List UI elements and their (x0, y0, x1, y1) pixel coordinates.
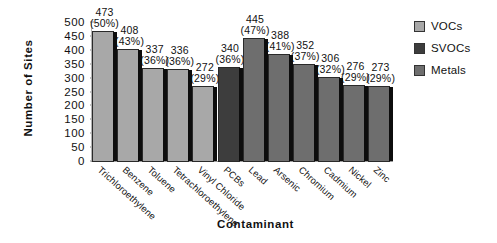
bar[interactable] (142, 68, 164, 162)
x-axis-title: Contaminant (0, 218, 497, 230)
bar-value-label: 273(29%) (366, 62, 395, 84)
bar-group: 408(43%) (117, 16, 142, 162)
legend-swatch-icon (414, 21, 425, 32)
bar-group: 473(50%) (92, 16, 117, 162)
bar-group: 306(32%) (318, 16, 343, 162)
legend-label: Metals (431, 64, 466, 76)
x-axis-tick-label: Zinc (372, 164, 393, 184)
legend-item-metals[interactable]: Metals (414, 63, 470, 77)
x-axis-tick-labels: TrichloroethyleneBenzeneTolueneTetrachlo… (91, 164, 396, 224)
bar-value-label: 340(36%) (215, 43, 244, 65)
x-axis-title-text: Contaminant (203, 218, 294, 230)
x-axis-tick-label: Lead (246, 164, 269, 187)
bar-group: 337(36%) (142, 16, 167, 162)
bar[interactable] (318, 77, 340, 162)
bar[interactable] (343, 85, 365, 162)
bar-group: 336(36%) (167, 16, 192, 162)
x-axis-tick-label: Arsenic (271, 164, 302, 194)
bar[interactable] (243, 38, 265, 162)
bar-percent: (36%) (215, 54, 244, 65)
y-axis-tick-labels: 500450400350300250200150100500 (44, 0, 89, 243)
y-axis-tick-500: 500 (64, 16, 85, 28)
bar-group: 276(29%) (343, 16, 368, 162)
legend-swatch-icon (414, 43, 425, 54)
bar-shadow (389, 87, 393, 161)
plot-area: 473(50%)408(43%)337(36%)336(36%)272(29%)… (91, 15, 392, 162)
y-axis-tick-100: 100 (64, 127, 85, 139)
legend-swatch-icon (414, 65, 425, 76)
legend-item-svocs[interactable]: SVOCs (414, 41, 470, 55)
y-axis-title: Number of Sites (16, 0, 40, 175)
bar-group: 272(29%) (192, 16, 217, 162)
bar[interactable] (293, 64, 315, 162)
legend-label: SVOCs (431, 42, 470, 54)
bar[interactable] (192, 86, 214, 162)
bar-group: 340(36%) (218, 16, 243, 162)
bar-value-label: 272(29%) (190, 62, 219, 84)
y-axis-tick-350: 350 (64, 58, 85, 70)
bar-chart: Number of Sites 500450400350300250200150… (0, 0, 497, 243)
bar-percent: (29%) (366, 73, 395, 84)
bar-group: 388(41%) (268, 16, 293, 162)
bar-value-label: 408(43%) (115, 25, 144, 47)
y-axis-tick-400: 400 (64, 44, 85, 56)
bar-group: 273(29%) (368, 16, 393, 162)
bar-percent: (29%) (190, 73, 219, 84)
bar[interactable] (117, 49, 139, 162)
bar-group: 352(37%) (293, 16, 318, 162)
y-axis-tick-250: 250 (64, 86, 85, 98)
bar[interactable] (218, 67, 240, 162)
y-axis-tick-450: 450 (64, 30, 85, 42)
y-axis-title-text: Number of Sites (22, 39, 34, 136)
legend-item-vocs[interactable]: VOCs (414, 19, 470, 33)
legend-label: VOCs (431, 20, 462, 32)
y-axis-tick-150: 150 (64, 113, 85, 125)
y-axis-tick-300: 300 (64, 72, 85, 84)
bar[interactable] (268, 54, 290, 162)
bar[interactable] (92, 31, 114, 162)
bar[interactable] (368, 86, 390, 162)
y-axis-tick-200: 200 (64, 99, 85, 111)
y-axis-tick-0: 0 (78, 155, 85, 167)
bar[interactable] (167, 69, 189, 162)
y-axis-tick-50: 50 (71, 141, 85, 153)
chart-legend: VOCsSVOCsMetals (414, 19, 470, 85)
bar-group: 445(47%) (243, 16, 268, 162)
